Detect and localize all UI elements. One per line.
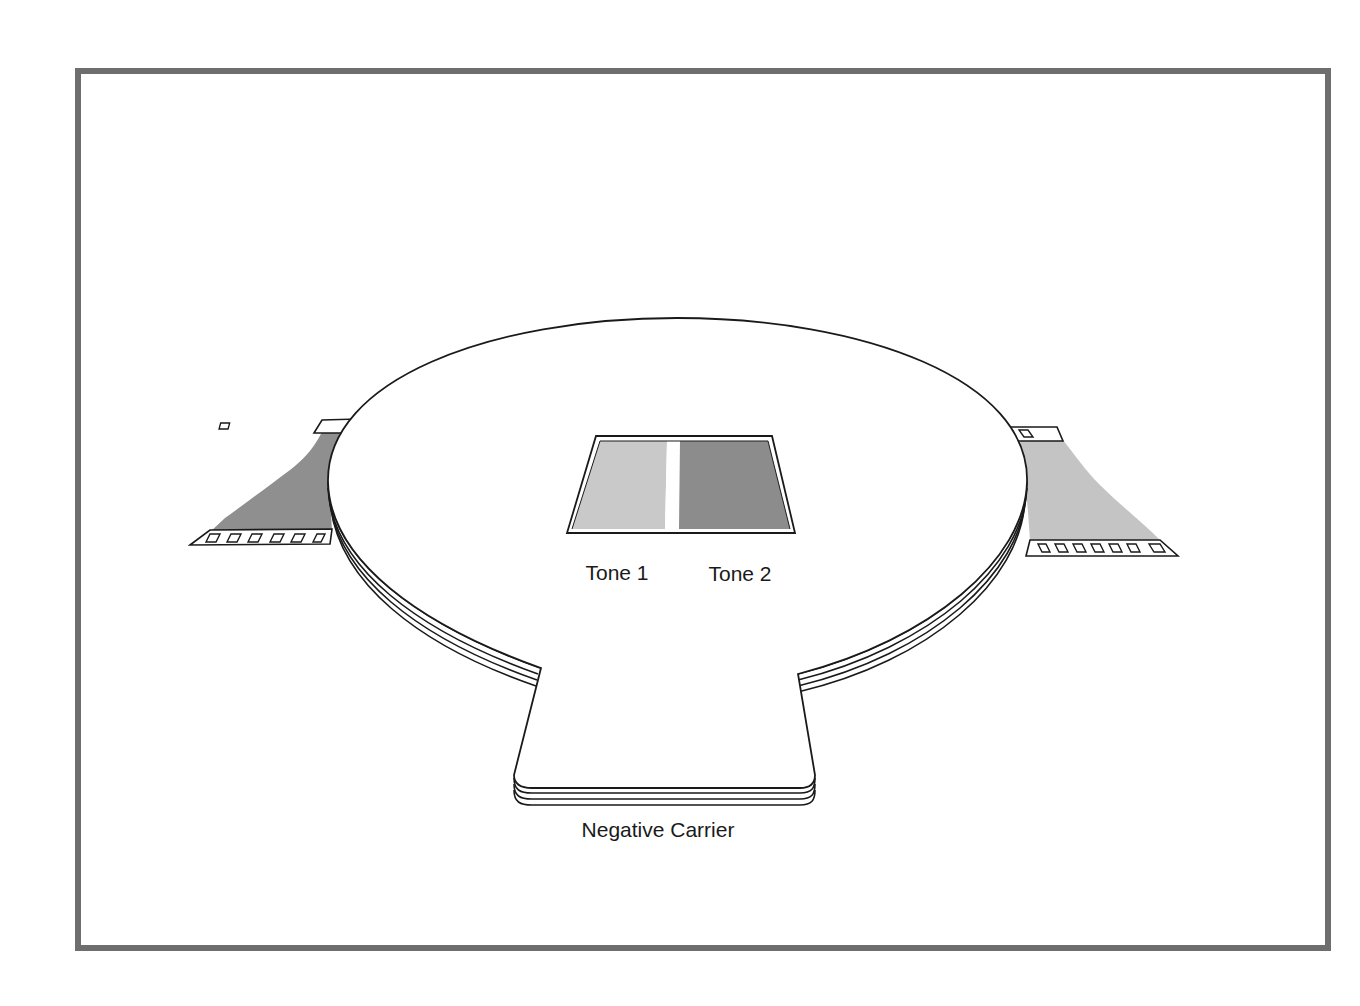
negative-window [567,436,795,533]
carrier-illustration [0,0,1360,1006]
window-separator [665,441,680,529]
negative-carrier [328,318,1027,788]
diagram-stage: Tone 1 Tone 2 Negative Carrier [0,0,1360,1006]
label-tone-1: Tone 1 [585,561,648,585]
label-tone-2: Tone 2 [708,562,771,586]
label-negative-carrier: Negative Carrier [582,818,735,842]
film-strip-right [1003,427,1178,556]
